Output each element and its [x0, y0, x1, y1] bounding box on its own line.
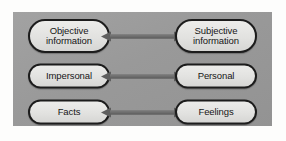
figure-canvas: Objective information Subjective informa… — [0, 0, 286, 141]
node-label-line1: Impersonal — [46, 71, 92, 81]
connector-facts-feelings — [101, 107, 184, 118]
node-label-line1: Feelings — [198, 107, 233, 117]
connector-objective-subjective — [101, 31, 184, 42]
node-facts: Facts — [28, 100, 110, 125]
node-feelings: Feelings — [175, 100, 257, 125]
node-label-line1: Personal — [198, 71, 235, 81]
node-label-line2: information — [193, 36, 239, 46]
node-objective-information: Objective information — [28, 19, 110, 53]
connector-bar — [110, 110, 175, 114]
node-impersonal: Impersonal — [28, 64, 110, 89]
connector-bar — [110, 74, 175, 78]
node-label-line1: Facts — [58, 107, 81, 117]
node-subjective-information: Subjective information — [175, 19, 257, 53]
diagram-row: Impersonal Personal — [13, 59, 272, 93]
diagram-row: Objective information Subjective informa… — [13, 19, 272, 53]
connector-bar — [110, 34, 175, 38]
node-label-line2: information — [46, 36, 92, 46]
node-personal: Personal — [175, 64, 257, 89]
connector-impersonal-personal — [101, 71, 184, 82]
diagram-row: Facts Feelings — [13, 95, 272, 129]
diagram-panel: Objective information Subjective informa… — [13, 12, 272, 126]
